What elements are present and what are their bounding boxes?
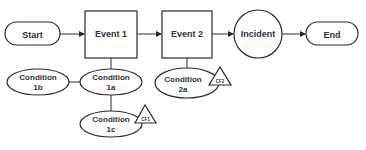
event1-node[interactable]: Event 1	[85, 11, 137, 58]
event2-node[interactable]: Event 2	[162, 11, 212, 58]
svg-text:CF2: CF2	[216, 79, 225, 84]
svg-text:Condition: Condition	[92, 115, 129, 124]
start-node[interactable]: Start	[5, 22, 60, 45]
cf1-triangle-icon[interactable]: CF1	[135, 105, 156, 123]
svg-text:CF1: CF1	[141, 117, 150, 122]
condition-1a-node[interactable]: Condition 1a	[80, 69, 142, 95]
svg-text:Condition: Condition	[92, 73, 129, 82]
svg-text:Incident: Incident	[241, 29, 276, 39]
svg-text:Event 2: Event 2	[171, 29, 203, 39]
svg-text:Start: Start	[22, 30, 43, 40]
condition-2a-node[interactable]: Condition 2a	[155, 68, 219, 98]
event-diagram: Start Event 1 Event 2 Incident End Condi…	[0, 0, 366, 150]
condition-1c-node[interactable]: Condition 1c	[80, 111, 142, 137]
end-node[interactable]: End	[306, 22, 358, 45]
svg-text:Condition: Condition	[19, 73, 56, 82]
condition-1b-node[interactable]: Condition 1b	[7, 69, 69, 95]
svg-text:Condition: Condition	[164, 75, 201, 84]
incident-node[interactable]: Incident	[234, 10, 282, 58]
svg-text:Event 1: Event 1	[95, 29, 127, 39]
svg-text:End: End	[324, 30, 341, 40]
svg-text:1b: 1b	[33, 83, 42, 92]
svg-text:1a: 1a	[107, 83, 116, 92]
svg-text:2a: 2a	[179, 85, 188, 94]
svg-text:1c: 1c	[107, 125, 116, 134]
